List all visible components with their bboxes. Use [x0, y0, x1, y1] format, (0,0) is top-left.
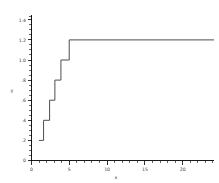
y-tick-label: 1.2 — [19, 38, 26, 43]
x-tick-label: 0 — [30, 167, 33, 172]
step-series-line — [39, 40, 214, 140]
y-tick-label: 1.0 — [19, 58, 26, 63]
y-tick-label: .6 — [22, 98, 26, 103]
x-axis-title: x — [115, 175, 118, 180]
chart-container: 0 .2 .4 .6 .8 1.0 1.2 1.4 0 5 10 15 20 y… — [0, 0, 219, 183]
y-tick-label: 0 — [23, 158, 26, 163]
x-axis-tick-labels: 0 5 10 15 20 — [30, 167, 186, 172]
chart-plot-area: 0 .2 .4 .6 .8 1.0 1.2 1.4 0 5 10 15 20 y… — [0, 0, 219, 183]
x-tick-label: 15 — [142, 167, 148, 172]
y-tick-label: .4 — [22, 118, 26, 123]
x-tick-label: 10 — [104, 167, 110, 172]
x-tick-label: 20 — [180, 167, 186, 172]
y-tick-label: .2 — [22, 138, 26, 143]
y-axis-title: y — [11, 88, 14, 93]
y-tick-label: .8 — [22, 78, 26, 83]
y-tick-label: 1.4 — [19, 18, 26, 23]
x-tick-label: 5 — [68, 167, 71, 172]
y-axis-tick-labels: 0 .2 .4 .6 .8 1.0 1.2 1.4 — [19, 18, 26, 164]
